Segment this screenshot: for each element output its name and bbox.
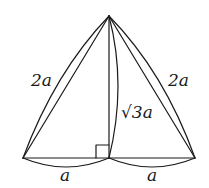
label-left-side-text: 2a [31, 70, 52, 90]
label-left-base: a [60, 167, 70, 184]
label-altitude-text: √3a [121, 102, 153, 122]
label-left-side: 2a [31, 72, 52, 89]
diagram-canvas [0, 0, 209, 188]
label-right-side-text: 2a [168, 70, 189, 90]
label-right-base: a [147, 167, 157, 184]
label-altitude: √3a [121, 104, 153, 121]
altitude-arc [109, 16, 118, 158]
right-angle-marker [96, 145, 109, 158]
triangle-diagram: 2a 2a √3a a a [0, 0, 209, 188]
label-right-base-text: a [147, 165, 157, 185]
label-left-base-text: a [60, 165, 70, 185]
label-right-side: 2a [168, 72, 189, 89]
